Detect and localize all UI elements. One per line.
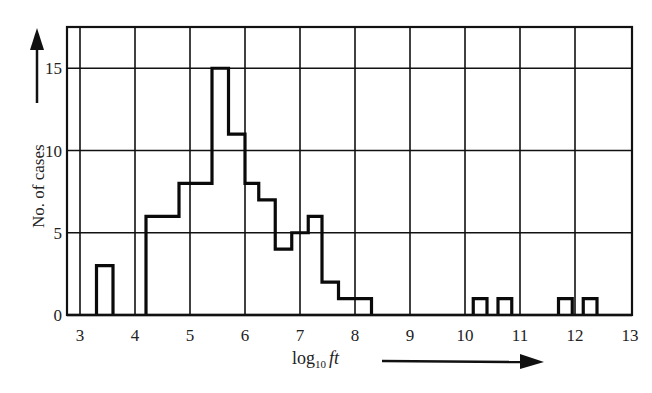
histogram-outline	[67, 68, 632, 315]
y-tick-label: 15	[45, 59, 62, 78]
plot-frame	[67, 27, 632, 315]
x-tick-label: 13	[622, 326, 639, 345]
x-axis-label: log10ft	[292, 348, 340, 370]
histogram-bar-group	[583, 299, 597, 315]
x-tick-label: 9	[406, 326, 415, 345]
histogram-bar-group	[498, 299, 512, 315]
y-axis-arrow-icon	[30, 28, 44, 103]
histogram-bar-group	[97, 266, 114, 315]
histogram-chart: 345678910111213 051015 No. of cases log1…	[0, 0, 652, 393]
x-axis-ticks: 345678910111213	[76, 326, 639, 345]
x-tick-label: 4	[131, 326, 140, 345]
y-tick-label: 5	[54, 224, 63, 243]
x-tick-label: 11	[512, 326, 528, 345]
histogram-bar-group	[559, 299, 573, 315]
y-tick-label: 0	[54, 306, 63, 325]
x-tick-label: 3	[76, 326, 85, 345]
x-tick-label: 12	[567, 326, 584, 345]
histogram-bar-group	[146, 68, 372, 315]
x-tick-label: 5	[186, 326, 195, 345]
histogram-figure: 345678910111213 051015 No. of cases log1…	[0, 0, 652, 393]
grid-lines	[67, 27, 632, 315]
histogram-bar-group	[473, 299, 487, 315]
x-axis-arrow-icon	[382, 354, 544, 369]
y-axis-label: No. of cases	[29, 144, 48, 228]
x-tick-label: 8	[351, 326, 360, 345]
x-tick-label: 6	[241, 326, 250, 345]
x-tick-label: 10	[457, 326, 474, 345]
x-tick-label: 7	[296, 326, 305, 345]
